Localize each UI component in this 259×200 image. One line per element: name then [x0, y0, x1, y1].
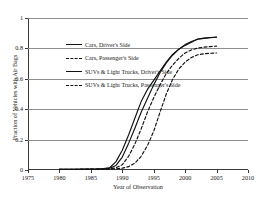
chart-legend: Cars, Driver's SideCars, Passenger's Sid…	[66, 38, 180, 92]
x-tick-label: 2000	[179, 175, 191, 181]
x-tick	[185, 170, 186, 173]
legend-label: Cars, Driver's Side	[85, 42, 130, 48]
plot-area: 00.20.40.60.81 1975198019851990199520002…	[28, 18, 248, 170]
legend-line-icon	[66, 82, 82, 89]
x-tick-label: 1990	[116, 175, 128, 181]
x-axis-title: Year of Observation	[28, 183, 248, 190]
x-tick	[217, 170, 218, 173]
x-tick	[28, 170, 29, 173]
x-tick	[91, 170, 92, 173]
legend-label: SUVs & Light Trucks, Driver's Side	[85, 69, 172, 75]
legend-item-4: SUVs & Light Trucks, Passenger's Side	[66, 79, 180, 93]
x-tick-label: 2010	[242, 175, 254, 181]
legend-label: Cars, Passenger's Side	[85, 55, 139, 61]
x-tick-label: 2005	[210, 175, 222, 181]
x-tick	[248, 170, 249, 173]
x-tick-label: 1975	[22, 175, 34, 181]
x-tick	[154, 170, 155, 173]
x-tick	[59, 170, 60, 173]
legend-item-1: Cars, Driver's Side	[66, 38, 180, 52]
x-tick-label: 1980	[53, 175, 65, 181]
legend-line-icon	[66, 68, 82, 75]
y-tick-label: 1	[20, 15, 23, 21]
legend-label: SUVs & Light Trucks, Passenger's Side	[85, 82, 180, 88]
legend-item-2: Cars, Passenger's Side	[66, 52, 180, 66]
y-tick-label: 0	[20, 167, 23, 173]
x-tick-label: 1985	[85, 175, 97, 181]
chart-figure: 00.20.40.60.81 1975198019851990199520002…	[0, 0, 259, 200]
legend-line-icon	[66, 41, 82, 48]
x-tick-label: 1995	[148, 175, 160, 181]
legend-line-icon	[66, 55, 82, 62]
x-tick	[122, 170, 123, 173]
legend-item-3: SUVs & Light Trucks, Driver's Side	[66, 65, 180, 79]
y-axis-title: Fraction of Vehicles with Air Bags	[11, 28, 18, 168]
